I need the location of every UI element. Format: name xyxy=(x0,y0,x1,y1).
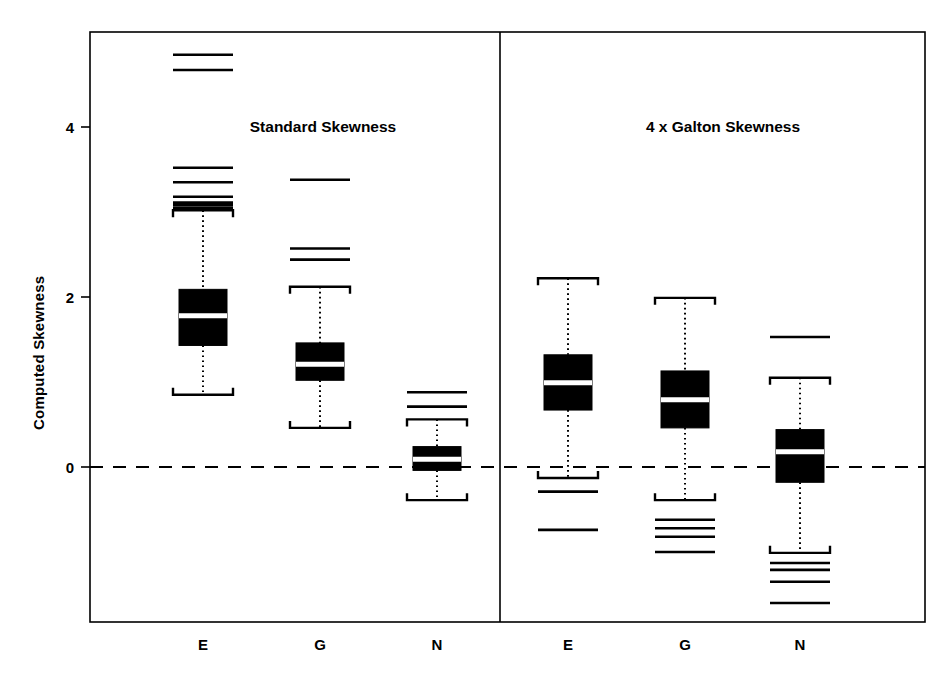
x-axis-label-4-x-galton-skewness-N: N xyxy=(795,636,806,653)
y-tick-label-2: 2 xyxy=(66,289,74,306)
panel-title-standard: Standard Skewness xyxy=(250,118,396,136)
boxplot-4-x-galton-skewness-E-lower-cap xyxy=(538,471,598,478)
panel-title-galton: 4 x Galton Skewness xyxy=(646,118,800,136)
figure-root: Computed Skewness 024Standard Skewness4 … xyxy=(0,0,945,677)
plot-canvas xyxy=(0,0,945,677)
boxplot-standard-skewness-G-lower-cap xyxy=(290,421,350,428)
x-axis-label-standard-skewness-E: E xyxy=(198,636,208,653)
x-axis-label-4-x-galton-skewness-E: E xyxy=(563,636,573,653)
y-tick-label-4: 4 xyxy=(66,119,74,136)
boxplot-4-x-galton-skewness-N-lower-cap xyxy=(770,546,830,553)
y-tick-label-0: 0 xyxy=(66,459,74,476)
x-axis-label-4-x-galton-skewness-G: G xyxy=(679,636,691,653)
x-axis-label-standard-skewness-N: N xyxy=(432,636,443,653)
boxplot-standard-skewness-G-box xyxy=(296,343,344,380)
boxplot-4-x-galton-skewness-N-box xyxy=(776,430,824,483)
x-axis-label-standard-skewness-G: G xyxy=(314,636,326,653)
